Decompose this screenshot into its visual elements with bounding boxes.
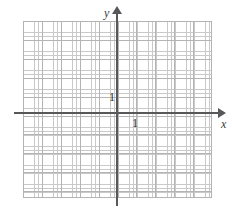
- y-axis-label: y: [104, 7, 109, 19]
- grid-right-border: [211, 21, 212, 198]
- y-axis-tick-label-1: 1: [109, 91, 115, 103]
- x-axis-tick-label-1: 1: [132, 117, 138, 129]
- y-axis-line: [116, 12, 118, 206]
- coordinate-plane-figure: x 1 y 1: [0, 0, 232, 217]
- x-axis-line: [14, 112, 222, 114]
- y-axis-arrow-icon: [112, 6, 122, 14]
- x-axis-label: x: [221, 118, 226, 130]
